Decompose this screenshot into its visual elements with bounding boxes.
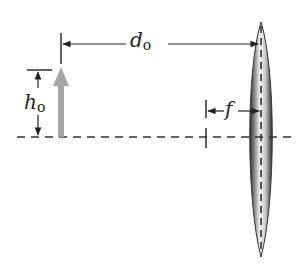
- object-arrow: [53, 67, 69, 137]
- thin-lens-diagram: do ho f: [0, 0, 302, 273]
- object-distance-dimension: [61, 33, 258, 64]
- label-object-distance: do: [130, 30, 151, 52]
- label-focal-length: f: [225, 99, 232, 119]
- label-object-height: ho: [24, 92, 45, 114]
